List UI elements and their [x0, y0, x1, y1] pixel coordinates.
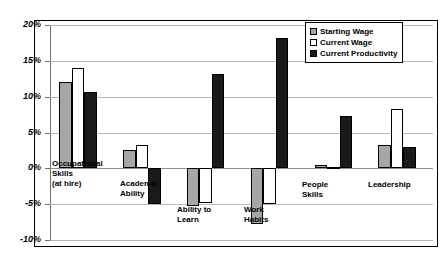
chart-legend: Starting WageCurrent WageCurrent Product… [305, 22, 403, 63]
y-axis-tick [45, 133, 50, 134]
bar [403, 147, 416, 169]
legend-label: Current Productivity [320, 49, 397, 58]
legend-item: Current Wage [310, 37, 397, 48]
bar [276, 38, 289, 168]
bar [123, 150, 136, 168]
legend-label: Current Wage [320, 38, 372, 47]
gridline-10 [50, 97, 433, 98]
y-axis-tick [45, 240, 50, 241]
y-axis-label: 10% [1, 92, 41, 101]
bar [378, 145, 391, 169]
y-axis-label: 20% [1, 20, 41, 29]
legend-item: Starting Wage [310, 26, 397, 37]
y-axis-label: 0% [1, 163, 41, 172]
category-label-5: Leadership [368, 180, 411, 190]
bar [199, 168, 212, 202]
y-axis-label: -10% [1, 235, 41, 244]
category-label-0: Occupational Skills (at hire) [52, 159, 103, 189]
bar [59, 82, 72, 168]
legend-label: Starting Wage [320, 27, 373, 36]
bar [327, 167, 340, 169]
category-label-2: Ability to Learn [177, 205, 211, 225]
legend-swatch-icon [310, 28, 317, 35]
bar [391, 109, 404, 168]
chart-screenshot: 20%15%10%5%0%-5%-10% Occupational Skills… [0, 0, 446, 264]
y-axis-label: 5% [1, 128, 41, 137]
bar [84, 92, 97, 169]
bar [263, 168, 276, 204]
category-label-4: People Skills [302, 180, 328, 200]
bar [187, 168, 200, 206]
gridline--5 [50, 204, 433, 205]
y-axis-tick [45, 168, 50, 169]
gridline-5 [50, 133, 433, 134]
y-axis-label: 15% [1, 56, 41, 65]
y-axis-tick [45, 97, 50, 98]
legend-swatch-icon [310, 50, 317, 57]
y-axis-tick [45, 61, 50, 62]
category-label-3: Work Habits [244, 205, 268, 225]
bar [136, 145, 149, 169]
category-label-1: Academic Ability [120, 179, 158, 199]
gridline--10 [50, 240, 433, 241]
gridline-0 [50, 168, 433, 169]
bar [315, 165, 328, 169]
bar [340, 116, 353, 168]
bar [212, 74, 225, 169]
y-axis-tick [45, 25, 50, 26]
legend-item: Current Productivity [310, 48, 397, 59]
y-axis-tick [45, 204, 50, 205]
bar [72, 68, 85, 168]
legend-swatch-icon [310, 39, 317, 46]
y-axis-label: -5% [1, 199, 41, 208]
